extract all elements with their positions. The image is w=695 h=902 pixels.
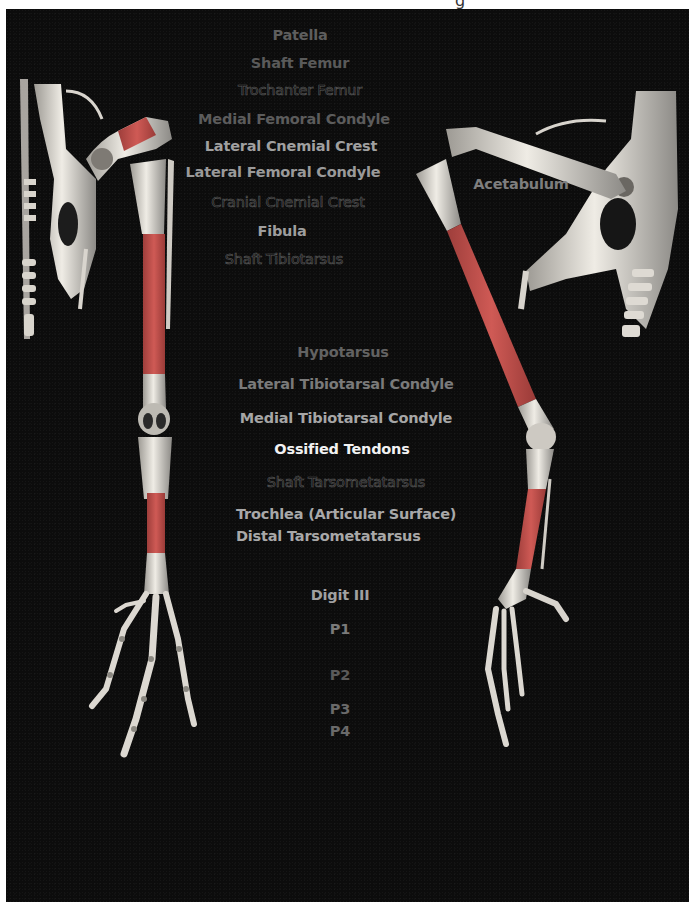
label-shaft-femur: Shaft Femur [251, 55, 349, 71]
label-ossified-tendons: Ossified Tendons [274, 441, 409, 457]
label-shaft-tarsometatarsus: Shaft Tarsometatarsus [267, 474, 425, 490]
label-lateral-tibiotarsal-condyle: Lateral Tibiotarsal Condyle [238, 376, 453, 392]
label-p4: P4 [330, 723, 350, 739]
label-p3: P3 [330, 701, 350, 717]
label-hypotarsus: Hypotarsus [297, 344, 388, 360]
label-trochlea: Trochlea (Articular Surface) [236, 506, 456, 522]
label-digit-iii: Digit III [311, 587, 370, 603]
label-fibula: Fibula [257, 223, 306, 239]
label-medial-tibiotarsal-condyle: Medial Tibiotarsal Condyle [240, 410, 452, 426]
label-p1: P1 [330, 621, 350, 637]
label-distal-tarsometatarsus: Distal Tarsometatarsus [236, 528, 421, 544]
label-p2: P2 [330, 667, 350, 683]
label-lateral-femoral-condyle: Lateral Femoral Condyle [186, 164, 381, 180]
label-lateral-cnemial-crest: Lateral Cnemial Crest [205, 138, 377, 154]
left-skeleton-figure [20, 79, 194, 754]
label-patella: Patella [272, 27, 327, 43]
label-cranial-cnemial-crest: Cranial Cnemial Crest [211, 194, 364, 210]
label-acetabulum: Acetabulum [473, 176, 568, 192]
skeleton-diagram-panel: Patella Shaft Femur Trochanter Femur Med… [6, 9, 689, 902]
label-trochanter-femur: Trochanter Femur [238, 82, 362, 98]
label-shaft-tibiotarsus: Shaft Tibiotarsus [225, 251, 343, 267]
label-medial-femoral-condyle: Medial Femoral Condyle [198, 111, 390, 127]
